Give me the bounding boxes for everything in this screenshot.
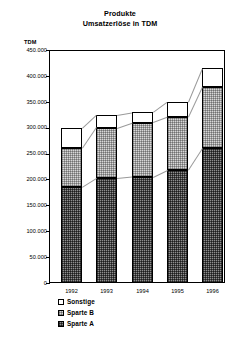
bar-group <box>132 50 153 283</box>
legend-item: Sparte B <box>58 307 95 318</box>
stack-connector-line <box>153 102 168 113</box>
bar-segment-sparte-a <box>132 177 153 283</box>
stack-connector-line <box>188 87 203 117</box>
bar-group <box>202 50 223 283</box>
x-axis-tick-label: 1992 <box>57 288 86 294</box>
stack-connector-line <box>117 122 132 128</box>
y-axis-tick-label: 250.000 <box>26 150 47 156</box>
legend-item-label: Sparte A <box>67 320 94 327</box>
legend-item: Sparte A <box>58 318 95 329</box>
bar-group <box>61 50 82 283</box>
chart-subtitle: Umsatzerlöse in TDM <box>0 19 240 29</box>
bar-segment-sparte-a <box>167 170 188 283</box>
bar-segment-sparte-b <box>167 117 188 170</box>
chart-page: Produkte Umsatzerlöse in TDM TDM 450.000… <box>0 0 240 344</box>
chart-title: Produkte <box>0 9 240 19</box>
chart-title-block: Produkte Umsatzerlöse in TDM <box>0 9 240 29</box>
y-axis-tick-label: 150.000 <box>26 202 47 208</box>
stack-connector-line <box>153 170 167 178</box>
bar-segment-sonstige <box>167 102 188 118</box>
x-axis-tick-label: 1996 <box>198 288 227 294</box>
stack-connector-line <box>188 148 203 170</box>
legend-swatch-icon <box>58 310 64 316</box>
y-axis-tick-mark <box>46 283 50 284</box>
x-axis-tick-label: 1994 <box>128 288 157 294</box>
stack-connector-line <box>82 178 97 188</box>
bar-segment-sparte-a <box>61 187 82 283</box>
legend-swatch-icon <box>58 321 64 327</box>
bar-segment-sparte-b <box>61 148 82 187</box>
legend-item: Sonstige <box>58 296 95 307</box>
legend-swatch-icon <box>58 299 64 305</box>
bar-segment-sonstige <box>202 68 223 87</box>
bar-segment-sonstige <box>61 128 82 149</box>
bar-segment-sparte-a <box>96 178 117 283</box>
y-axis-tick-label: 50.000 <box>30 254 47 260</box>
bar-segment-sonstige <box>96 115 117 128</box>
y-axis-tick-label: 300.000 <box>26 124 47 130</box>
x-axis-tick-label: 1995 <box>163 288 192 294</box>
bar-segment-sparte-b <box>96 128 117 179</box>
stack-connector-line <box>153 117 167 123</box>
y-axis-tick-label: 400.000 <box>26 73 47 79</box>
y-axis-tick-label: 200.000 <box>26 176 47 182</box>
x-axis-tick-label: 1993 <box>92 288 121 294</box>
chart-legend: SonstigeSparte BSparte A <box>58 296 95 329</box>
stack-connector-line <box>82 115 97 129</box>
bar-segment-sparte-b <box>132 123 153 177</box>
bar-group <box>167 50 188 283</box>
legend-item-label: Sonstige <box>67 298 95 305</box>
y-axis-tick-label: 350.000 <box>26 99 47 105</box>
bar-segment-sonstige <box>132 112 153 122</box>
y-axis-tick-label: 450.000 <box>26 47 47 53</box>
stack-connector-line <box>82 128 97 149</box>
y-axis-tick-label: 100.000 <box>26 228 47 234</box>
bar-group <box>96 50 117 283</box>
stack-connector-line <box>188 68 203 102</box>
stack-connector-line <box>117 177 132 180</box>
bar-segment-sparte-a <box>202 148 223 283</box>
bar-segment-sparte-b <box>202 87 223 148</box>
stack-connector-line <box>117 112 132 116</box>
legend-item-label: Sparte B <box>67 309 94 316</box>
y-axis-unit-label: TDM <box>24 39 36 45</box>
bars-layer <box>49 50 225 283</box>
